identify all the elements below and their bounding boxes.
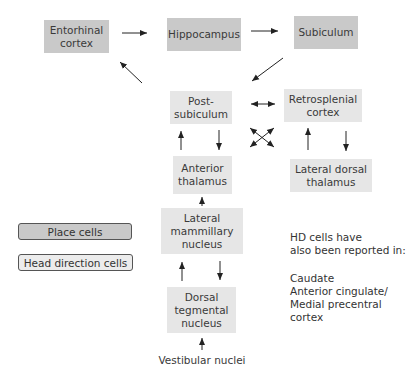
legend-place-cells: Place cells bbox=[18, 223, 132, 240]
node-anterior-thalamus: Anterior thalamus bbox=[173, 156, 232, 194]
legend-head-direction-cells: Head direction cells bbox=[18, 254, 133, 271]
node-entorhinal-cortex: Entorhinal cortex bbox=[44, 20, 109, 53]
node-hippocampus: Hippocampus bbox=[167, 18, 241, 51]
arrow-subiculum-to-postsubiculum bbox=[252, 58, 283, 81]
arrow-postsubiculum-to-entorhinal bbox=[120, 62, 142, 83]
note-regions: Caudate Anterior cingulate/ Medial prece… bbox=[290, 272, 413, 324]
note-heading: HD cells have also been reported in: bbox=[290, 231, 406, 257]
node-vestibular-nuclei: Vestibular nuclei bbox=[150, 352, 254, 368]
node-retrosplenial-cortex: Retrosplenial cortex bbox=[284, 89, 362, 122]
node-lateral-dorsal-thalamus: Lateral dorsal thalamus bbox=[290, 159, 372, 192]
node-subiculum: Subiculum bbox=[294, 16, 358, 49]
node-postsubiculum: Post- subiculum bbox=[170, 91, 232, 124]
node-dorsal-tegmental-nucleus: Dorsal tegmental nucleus bbox=[167, 287, 236, 333]
node-lateral-mammillary-nucleus: Lateral mammillary nucleus bbox=[161, 208, 243, 254]
